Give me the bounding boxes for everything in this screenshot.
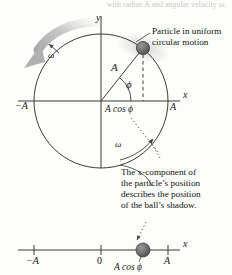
lower-tick-label-minus-a: −A xyxy=(26,256,39,267)
x-axis-label-upper: x xyxy=(183,90,187,101)
angle-phi-label: ϕ xyxy=(126,79,132,91)
lower-tick-label-a: A xyxy=(164,256,170,267)
shadow-callout-line-4: of the ball’s shadow. xyxy=(121,200,196,211)
x-axis-label-lower: x xyxy=(183,239,187,250)
minus-amplitude-label-upper: −A xyxy=(15,101,28,112)
projection-label: A cos ϕ xyxy=(105,105,133,115)
lower-ball-leader xyxy=(137,222,146,240)
shadow-callout-line-1: The x-component of xyxy=(121,167,196,178)
particle-ball xyxy=(136,41,149,54)
radius-line xyxy=(101,48,143,101)
lower-tick-label-zero: 0 xyxy=(97,256,102,267)
omega-tangent-arrow xyxy=(120,139,153,160)
circular-motion-figure: with radius A and angular velocity ω. xyxy=(0,0,232,275)
shadow-callout-line-2: the particle’s position xyxy=(121,178,200,189)
amplitude-label-upper: A xyxy=(170,102,176,113)
particle-callout-line-2: circular motion xyxy=(152,37,208,48)
particle-callout-line-1: Particle in uniform xyxy=(152,26,221,37)
rotation-arrow-large xyxy=(24,22,96,68)
radius-label: A xyxy=(111,62,118,74)
shadow-callout-leader-up xyxy=(150,141,160,158)
shadow-ball-label: A cos ϕ xyxy=(114,263,142,273)
omega-label-left: ω xyxy=(48,51,54,60)
omega-label-right: ω xyxy=(115,140,121,149)
y-axis-label: y xyxy=(96,13,100,24)
shadow-ball xyxy=(136,243,150,257)
shadow-callout-line-3: describes the position xyxy=(121,189,201,200)
